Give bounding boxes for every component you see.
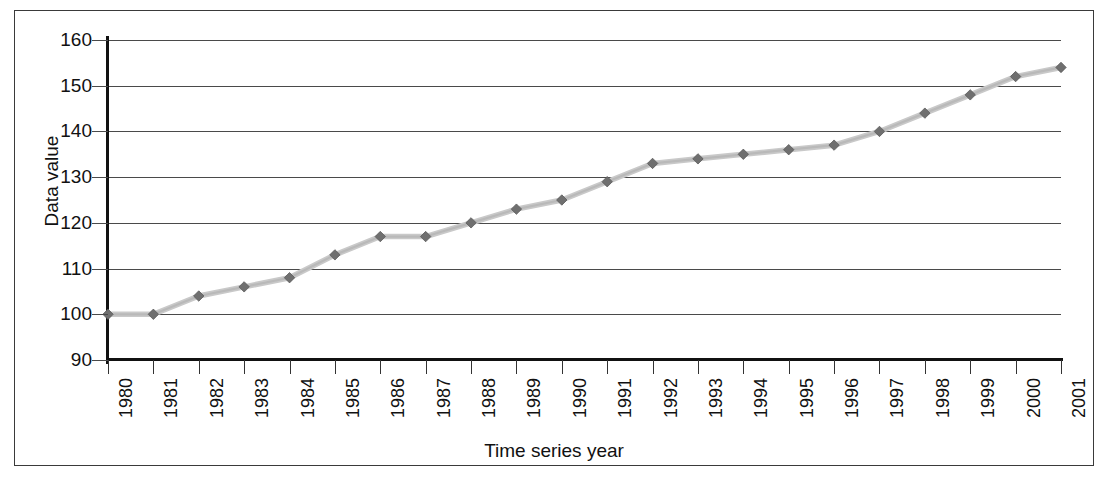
y-tick-120 [92,223,108,224]
x-tick-1982 [199,360,200,374]
x-tick-1985 [335,360,336,374]
x-tick-label-1990: 1990 [571,378,589,418]
y-tick-100 [92,314,108,315]
x-tick-label-1980: 1980 [117,378,135,418]
x-tick-1997 [879,360,880,374]
x-tick-1984 [290,360,291,374]
x-tick-1983 [244,360,245,374]
x-tick-1999 [970,360,971,374]
x-tick-label-1981: 1981 [162,378,180,418]
x-tick-1993 [698,360,699,374]
x-tick-label-1988: 1988 [480,378,498,418]
x-tick-label-1998: 1998 [934,378,952,418]
x-tick-label-1994: 1994 [752,378,770,418]
y-tick-130 [92,177,108,178]
x-tick-label-1995: 1995 [798,378,816,418]
y-tick-150 [92,86,108,87]
x-tick-label-1991: 1991 [616,378,634,418]
x-tick-1981 [153,360,154,374]
x-tick-label-1985: 1985 [344,378,362,418]
x-tick-label-2000: 2000 [1025,378,1043,418]
x-tick-label-1997: 1997 [888,378,906,418]
y-tick-140 [92,131,108,132]
series-line-core [108,67,1061,314]
data-point-1994 [738,149,748,159]
x-tick-label-1987: 1987 [435,378,453,418]
x-tick-1987 [426,360,427,374]
x-tick-label-1999: 1999 [979,378,997,418]
x-tick-2000 [1016,360,1017,374]
x-tick-label-2001: 2001 [1070,378,1088,418]
data-point-1993 [693,154,703,164]
x-tick-label-1992: 1992 [662,378,680,418]
x-axis-title: Time series year [0,440,1108,462]
y-tick-160 [92,40,108,41]
x-tick-label-1984: 1984 [299,378,317,418]
y-tick-90 [92,360,108,361]
x-tick-label-1993: 1993 [707,378,725,418]
x-tick-label-1983: 1983 [253,378,271,418]
x-tick-1998 [925,360,926,374]
x-tick-label-1989: 1989 [525,378,543,418]
x-tick-label-1986: 1986 [389,378,407,418]
x-tick-1994 [743,360,744,374]
x-tick-label-1982: 1982 [208,378,226,418]
x-tick-1991 [607,360,608,374]
chart-figure: 16015014013012011010090 Data value Time … [0,0,1108,488]
y-axis-title: Data value [41,71,63,291]
x-tick-label-1996: 1996 [843,378,861,418]
x-tick-2001 [1061,360,1062,374]
x-tick-1986 [380,360,381,374]
x-tick-1989 [516,360,517,374]
x-tick-1988 [471,360,472,374]
data-point-2001 [1056,62,1066,72]
x-tick-1995 [789,360,790,374]
x-tick-1980 [108,360,109,374]
x-tick-1996 [834,360,835,374]
x-tick-1992 [653,360,654,374]
y-tick-110 [92,269,108,270]
data-point-1983 [239,282,249,292]
data-point-1995 [784,145,794,155]
x-tick-1990 [562,360,563,374]
